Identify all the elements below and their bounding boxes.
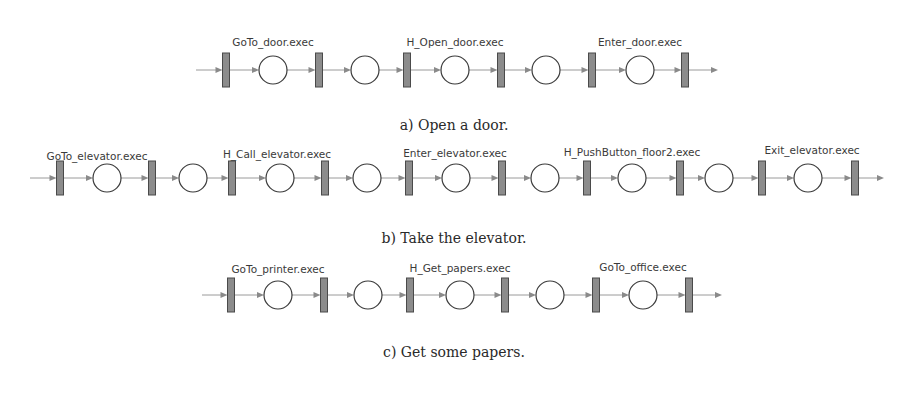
- place-circle: [441, 56, 469, 84]
- arrowhead-icon: [698, 175, 705, 181]
- place-circle: [264, 281, 292, 309]
- arrowhead-icon: [529, 292, 536, 298]
- arrowhead-icon: [259, 175, 266, 181]
- action-label: GoTo_door.exec: [232, 36, 314, 49]
- arrowhead-icon: [50, 175, 57, 181]
- arrowhead-icon: [314, 292, 321, 298]
- place-circle: [179, 164, 207, 192]
- transition-bar: [322, 161, 329, 195]
- arrowhead-icon: [877, 175, 884, 181]
- transition-bar: [686, 278, 693, 312]
- arrowhead-icon: [845, 175, 852, 181]
- transition-bar: [682, 53, 689, 87]
- arrowhead-icon: [525, 67, 532, 73]
- arrowhead-icon: [582, 67, 589, 73]
- transition-bar: [404, 53, 411, 87]
- arrowhead-icon: [344, 67, 351, 73]
- action-label: H_Open_door.exec: [406, 36, 503, 49]
- transition-bar: [57, 161, 64, 195]
- transition-bar: [223, 53, 230, 87]
- place-circle: [259, 56, 287, 84]
- arrowhead-icon: [435, 175, 442, 181]
- caption-get-papers: c) Get some papers.: [383, 344, 525, 360]
- place-circle: [446, 281, 474, 309]
- transition-bar: [498, 53, 505, 87]
- arrowhead-icon: [524, 175, 531, 181]
- arrowhead-icon: [619, 67, 626, 73]
- arrowhead-icon: [787, 175, 794, 181]
- action-label: H_Get_papers.exec: [410, 262, 511, 275]
- arrowhead-icon: [495, 292, 502, 298]
- transition-bar: [852, 161, 859, 195]
- place-circle: [536, 281, 564, 309]
- transition-bar: [229, 161, 236, 195]
- transition-bar: [228, 278, 235, 312]
- transition-bar: [759, 161, 766, 195]
- arrowhead-icon: [492, 175, 499, 181]
- action-label: Exit_elevator.exec: [764, 144, 859, 157]
- arrowhead-icon: [622, 292, 629, 298]
- action-label: GoTo_office.exec: [599, 261, 687, 274]
- petri-net-take-elevator: GoTo_elevator.execH_Call_elevator.execEn…: [30, 144, 884, 195]
- transition-bar: [589, 53, 596, 87]
- arrowhead-icon: [346, 175, 353, 181]
- action-label: GoTo_elevator.exec: [47, 150, 148, 163]
- petri-net-get-papers: GoTo_printer.execH_Get_papers.execGoTo_o…: [202, 261, 722, 312]
- caption-open-door: a) Open a door.: [400, 117, 509, 133]
- arrowhead-icon: [752, 175, 759, 181]
- place-circle: [93, 164, 121, 192]
- arrowhead-icon: [221, 292, 228, 298]
- place-circle: [794, 164, 822, 192]
- transition-bar: [321, 278, 328, 312]
- arrowhead-icon: [679, 292, 686, 298]
- arrowhead-icon: [397, 67, 404, 73]
- arrowhead-icon: [711, 67, 718, 73]
- transition-bar: [149, 161, 156, 195]
- place-circle: [532, 56, 560, 84]
- transition-bar: [593, 278, 600, 312]
- place-circle: [266, 164, 294, 192]
- place-circle: [442, 164, 470, 192]
- transition-bar: [316, 53, 323, 87]
- arrowhead-icon: [216, 67, 223, 73]
- arrowhead-icon: [670, 175, 677, 181]
- arrowhead-icon: [439, 292, 446, 298]
- arrowhead-icon: [257, 292, 264, 298]
- arrowhead-icon: [611, 175, 618, 181]
- arrowhead-icon: [315, 175, 322, 181]
- petri-net-figure: GoTo_door.execH_Open_door.execEnter_door…: [0, 0, 909, 393]
- place-circle: [629, 281, 657, 309]
- transition-bar: [407, 278, 414, 312]
- place-circle: [531, 164, 559, 192]
- place-circle: [705, 164, 733, 192]
- place-circle: [626, 56, 654, 84]
- action-label: Enter_door.exec: [598, 36, 682, 49]
- place-circle: [353, 164, 381, 192]
- action-label: GoTo_printer.exec: [231, 263, 324, 276]
- transition-bar: [677, 161, 684, 195]
- place-circle: [354, 281, 382, 309]
- arrowhead-icon: [491, 67, 498, 73]
- action-label: H_PushButton_floor2.exec: [564, 146, 701, 159]
- action-label: Enter_elevator.exec: [403, 147, 507, 160]
- arrowhead-icon: [86, 175, 93, 181]
- arrowhead-icon: [586, 292, 593, 298]
- transition-bar: [502, 278, 509, 312]
- arrowhead-icon: [222, 175, 229, 181]
- arrowhead-icon: [400, 292, 407, 298]
- place-circle: [351, 56, 379, 84]
- action-label: H_Call_elevator.exec: [223, 148, 331, 161]
- arrowhead-icon: [715, 292, 722, 298]
- transition-bar: [406, 161, 413, 195]
- arrowhead-icon: [142, 175, 149, 181]
- arrowhead-icon: [577, 175, 584, 181]
- petri-net-open-door: GoTo_door.execH_Open_door.execEnter_door…: [196, 36, 718, 87]
- transition-bar: [499, 161, 506, 195]
- arrowhead-icon: [172, 175, 179, 181]
- arrowhead-icon: [675, 67, 682, 73]
- transition-bar: [584, 161, 591, 195]
- arrowhead-icon: [309, 67, 316, 73]
- arrowhead-icon: [252, 67, 259, 73]
- arrowhead-icon: [347, 292, 354, 298]
- arrowhead-icon: [434, 67, 441, 73]
